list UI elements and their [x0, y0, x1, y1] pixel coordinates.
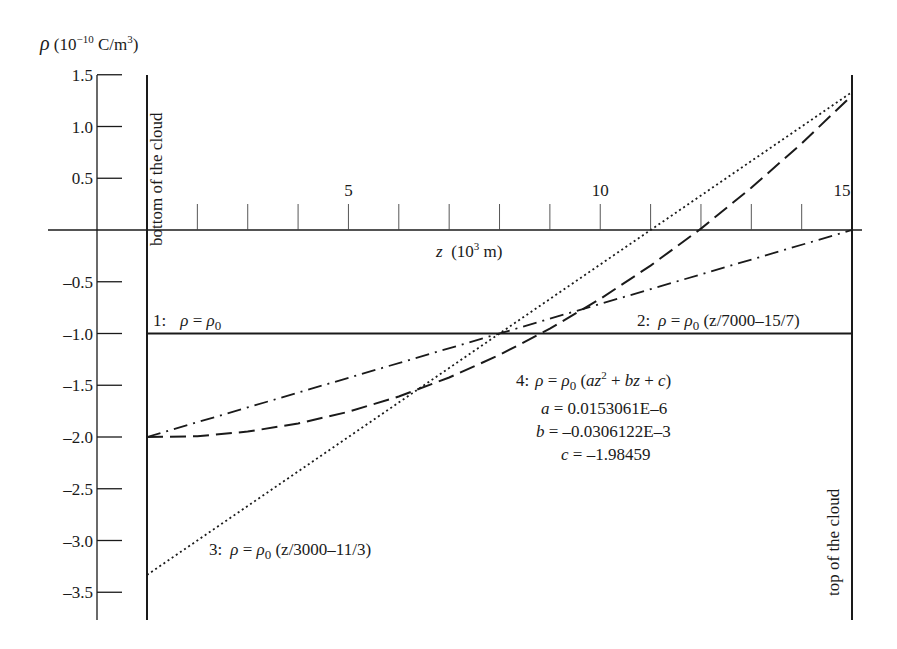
- curve-2-label: 2:ρ = ρ0 (z/7000–15/7): [637, 311, 800, 333]
- x-tick-label: 10: [592, 181, 609, 200]
- y-tick-label: –1.5: [62, 376, 93, 395]
- top-of-cloud-label: top of the cloud: [824, 488, 843, 596]
- charge-density-chart: ρ (10−10 C/m3) 1.51.00.5–0.5–1.0–1.5–2.0…: [0, 0, 897, 649]
- coef-c-label: c = –1.98459: [561, 445, 650, 464]
- y-tick-label: –3.0: [62, 532, 93, 551]
- y-tick-label: –3.5: [62, 583, 93, 602]
- y-tick-label: 1.0: [72, 118, 93, 137]
- series-4-line: [147, 95, 852, 437]
- y-tick-label: –2.0: [62, 428, 93, 447]
- x-axis-ticks: 51015: [197, 181, 850, 230]
- y-tick-label: 1.5: [72, 66, 93, 85]
- x-tick-label: 5: [344, 181, 353, 200]
- curve-4-label: 4:ρ = ρ0 (az2 + bz + c): [516, 369, 671, 393]
- y-tick-label: 0.5: [72, 169, 93, 188]
- bottom-of-cloud-label: bottom of the cloud: [147, 112, 166, 246]
- curve-3-label: 3:ρ = ρ0 (z/3000–11/3): [209, 540, 371, 562]
- x-axis-label: z (103 m): [435, 240, 502, 261]
- coef-b-label: b = –0.0306122E–3: [536, 422, 671, 441]
- y-axis-ticks: 1.51.00.5–0.5–1.0–1.5–2.0–2.5–3.0–3.5: [62, 66, 122, 603]
- coef-a-label: a = 0.0153061E–6: [541, 399, 667, 418]
- y-tick-label: –0.5: [62, 273, 93, 292]
- y-tick-label: –1.0: [62, 325, 93, 344]
- y-tick-label: –2.5: [62, 480, 93, 499]
- curve-1-label: 1:ρ = ρ0: [153, 311, 221, 333]
- y-axis-label: ρ (10−10 C/m3): [39, 32, 138, 55]
- data-series: [147, 92, 852, 575]
- x-tick-label: 15: [834, 181, 851, 200]
